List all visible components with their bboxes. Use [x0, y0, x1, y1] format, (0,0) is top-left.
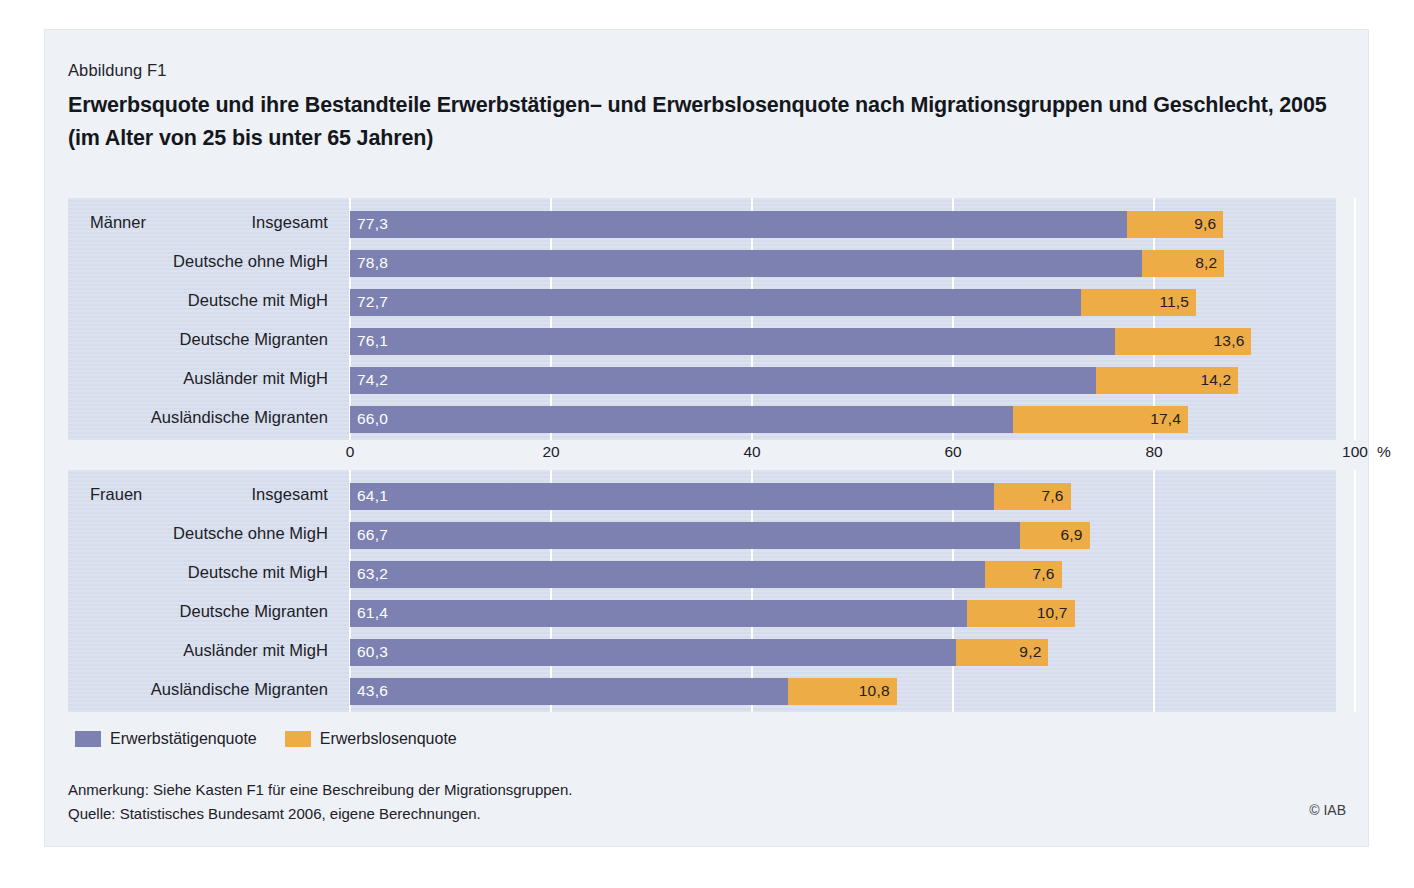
bar-row: Insgesamt77,39,6 — [68, 211, 1336, 238]
bar-value-erwerbslosenquote: 7,6 — [1032, 565, 1054, 583]
bar-segment-erwerbstaetigenquote — [350, 561, 985, 588]
bar-segment-erwerbstaetigenquote — [350, 406, 1013, 433]
bar-value-erwerbstaetigenquote: 72,7 — [357, 293, 388, 311]
bar-value-erwerbslosenquote: 13,6 — [1214, 332, 1245, 350]
legend-label: Erwerbstätigenquote — [110, 730, 257, 748]
figure-notes: Anmerkung: Siehe Kasten F1 für eine Besc… — [68, 778, 572, 826]
bar-row: Deutsche Migranten76,113,6 — [68, 328, 1336, 355]
bar-value-erwerbstaetigenquote: 60,3 — [357, 643, 388, 661]
stacked-bar: 64,17,6 — [350, 483, 1071, 510]
figure-title: Erwerbsquote und ihre Bestandteile Erwer… — [68, 89, 1353, 155]
bar-value-erwerbstaetigenquote: 66,7 — [357, 526, 388, 544]
x-axis-tick-20: 20 — [542, 443, 559, 461]
bar-value-erwerbstaetigenquote: 63,2 — [357, 565, 388, 583]
bar-segment-erwerbstaetigenquote — [350, 678, 788, 705]
bar-row: Insgesamt64,17,6 — [68, 483, 1336, 510]
bar-row: Ausländer mit MigH74,214,2 — [68, 367, 1336, 394]
bar-value-erwerbstaetigenquote: 43,6 — [357, 682, 388, 700]
bar-row-label: Deutsche mit MigH — [68, 563, 328, 582]
figure-container: Abbildung F1 Erwerbsquote und ihre Besta… — [45, 30, 1368, 846]
gridline-100 — [1354, 470, 1356, 712]
x-axis-tick-100: 100 — [1342, 443, 1368, 461]
bar-row-label: Deutsche Migranten — [68, 602, 328, 621]
bar-segment-erwerbstaetigenquote — [350, 367, 1096, 394]
bar-row-label: Deutsche ohne MigH — [68, 252, 328, 271]
group-caption-maenner: Männer — [90, 213, 146, 232]
bar-segment-erwerbstaetigenquote — [350, 522, 1020, 549]
bar-value-erwerbslosenquote: 7,6 — [1041, 487, 1063, 505]
note-anmerkung: Anmerkung: Siehe Kasten F1 für eine Besc… — [68, 778, 572, 802]
chart-panel-frauen: FrauenInsgesamt64,17,6Deutsche ohne MigH… — [68, 470, 1336, 712]
bar-value-erwerbslosenquote: 6,9 — [1061, 526, 1083, 544]
legend-label: Erwerbslosenquote — [320, 730, 457, 748]
bar-row: Deutsche Migranten61,410,7 — [68, 600, 1336, 627]
figure-number: Abbildung F1 — [68, 61, 166, 80]
stacked-bar: 77,39,6 — [350, 211, 1223, 238]
bar-value-erwerbslosenquote: 17,4 — [1150, 410, 1181, 428]
bar-value-erwerbslosenquote: 11,5 — [1159, 293, 1189, 311]
bar-segment-erwerbstaetigenquote — [350, 289, 1081, 316]
stacked-bar: 78,88,2 — [350, 250, 1224, 277]
bar-row-label: Deutsche Migranten — [68, 330, 328, 349]
bar-row-label: Deutsche ohne MigH — [68, 524, 328, 543]
legend-swatch-icon — [75, 731, 101, 747]
bar-value-erwerbslosenquote: 9,2 — [1019, 643, 1041, 661]
bar-value-erwerbstaetigenquote: 76,1 — [357, 332, 388, 350]
bar-segment-erwerbstaetigenquote — [350, 328, 1115, 355]
stacked-bar: 63,27,6 — [350, 561, 1062, 588]
bar-value-erwerbstaetigenquote: 64,1 — [357, 487, 388, 505]
bar-row-label: Ausländer mit MigH — [68, 641, 328, 660]
bar-value-erwerbstaetigenquote: 61,4 — [357, 604, 388, 622]
bar-value-erwerbstaetigenquote: 74,2 — [357, 371, 388, 389]
bar-row-label: Deutsche mit MigH — [68, 291, 328, 310]
stacked-bar: 66,017,4 — [350, 406, 1188, 433]
x-axis-tick-80: 80 — [1145, 443, 1162, 461]
bar-row: Deutsche ohne MigH78,88,2 — [68, 250, 1336, 277]
stacked-bar: 43,610,8 — [350, 678, 897, 705]
copyright-credit: © IAB — [1309, 802, 1346, 818]
bar-row: Deutsche ohne MigH66,76,9 — [68, 522, 1336, 549]
bar-value-erwerbslosenquote: 10,7 — [1037, 604, 1068, 622]
bar-segment-erwerbstaetigenquote — [350, 639, 956, 666]
bar-row: Ausländer mit MigH60,39,2 — [68, 639, 1336, 666]
gridline-100 — [1354, 198, 1356, 440]
bar-value-erwerbstaetigenquote: 78,8 — [357, 254, 388, 272]
stacked-bar: 74,214,2 — [350, 367, 1238, 394]
bar-value-erwerbslosenquote: 14,2 — [1200, 371, 1231, 389]
x-axis-tick-60: 60 — [944, 443, 961, 461]
stacked-bar: 76,113,6 — [350, 328, 1251, 355]
bar-value-erwerbslosenquote: 9,6 — [1194, 215, 1216, 233]
chart-legend: ErwerbstätigenquoteErwerbslosenquote — [75, 730, 474, 748]
bar-segment-erwerbstaetigenquote — [350, 211, 1127, 238]
x-axis-unit-label: % — [1377, 443, 1391, 461]
bar-row-label: Ausländische Migranten — [68, 680, 328, 699]
chart-panel-maenner: MännerInsgesamt77,39,6Deutsche ohne MigH… — [68, 198, 1336, 440]
stacked-bar: 61,410,7 — [350, 600, 1075, 627]
bar-value-erwerbstaetigenquote: 77,3 — [357, 215, 388, 233]
bar-row: Deutsche mit MigH72,711,5 — [68, 289, 1336, 316]
bar-row-label: Ausländer mit MigH — [68, 369, 328, 388]
bar-value-erwerbslosenquote: 10,8 — [859, 682, 890, 700]
legend-item-0: Erwerbstätigenquote — [75, 730, 257, 748]
bar-value-erwerbslosenquote: 8,2 — [1195, 254, 1217, 272]
bar-value-erwerbstaetigenquote: 66,0 — [357, 410, 388, 428]
note-quelle: Quelle: Statistisches Bundesamt 2006, ei… — [68, 802, 572, 826]
x-axis: 020406080100% — [68, 440, 1336, 470]
x-axis-tick-40: 40 — [743, 443, 760, 461]
stacked-bar: 60,39,2 — [350, 639, 1048, 666]
bar-row: Ausländische Migranten66,017,4 — [68, 406, 1336, 433]
bar-segment-erwerbstaetigenquote — [350, 483, 994, 510]
bar-segment-erwerbstaetigenquote — [350, 250, 1142, 277]
bar-segment-erwerbstaetigenquote — [350, 600, 967, 627]
stacked-bar: 66,76,9 — [350, 522, 1090, 549]
legend-item-1: Erwerbslosenquote — [285, 730, 457, 748]
group-caption-frauen: Frauen — [90, 485, 142, 504]
legend-swatch-icon — [285, 731, 311, 747]
bar-row: Ausländische Migranten43,610,8 — [68, 678, 1336, 705]
bar-row: Deutsche mit MigH63,27,6 — [68, 561, 1336, 588]
bar-row-label: Ausländische Migranten — [68, 408, 328, 427]
stacked-bar: 72,711,5 — [350, 289, 1196, 316]
x-axis-tick-0: 0 — [346, 443, 355, 461]
